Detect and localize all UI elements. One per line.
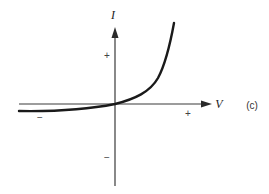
i-positive-sign: + <box>104 50 110 61</box>
i-axis <box>112 27 119 186</box>
i-negative-sign: − <box>104 152 110 163</box>
v-axis-arrow-icon <box>201 101 212 108</box>
i-axis-arrow-icon <box>112 27 119 38</box>
v-positive-sign: + <box>185 108 191 119</box>
v-axis-label: V <box>215 97 224 111</box>
iv-curve <box>19 23 174 111</box>
v-negative-sign: − <box>37 112 43 123</box>
iv-characteristic-diagram: I V + − + − (c) <box>0 0 269 194</box>
i-axis-label: I <box>110 8 116 22</box>
panel-label: (c) <box>246 100 258 111</box>
